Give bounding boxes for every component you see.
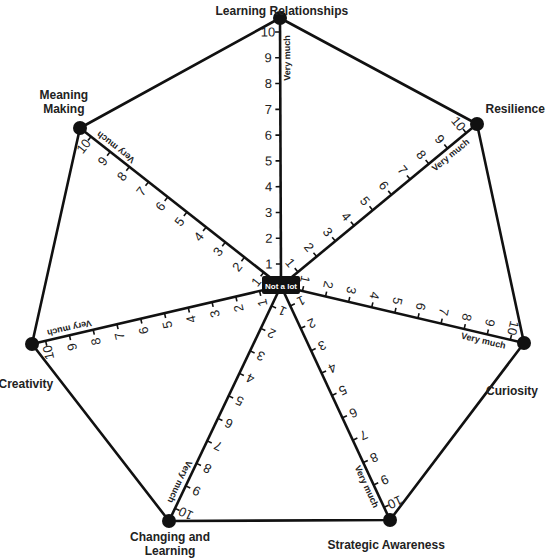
tick-mark <box>188 308 189 313</box>
tick-label: 3 <box>343 285 359 295</box>
tick-mark <box>184 212 187 216</box>
vertex-dot <box>25 337 39 351</box>
tick-mark <box>164 313 165 318</box>
tick-mark <box>145 182 148 186</box>
axis-line <box>80 128 281 286</box>
axis-learning-relationships: 12345678910Very much <box>261 11 292 286</box>
tick-label: 3 <box>316 337 329 354</box>
tick-label: 1 <box>282 255 298 270</box>
tick-mark <box>260 291 261 296</box>
tick-label: 7 <box>133 184 149 199</box>
tick-mark <box>510 335 511 340</box>
tick-mark <box>311 349 316 351</box>
tick-label: 9 <box>482 317 498 327</box>
tick-label: 2 <box>301 240 317 255</box>
tick-label: 9 <box>265 50 272 65</box>
tick-mark <box>332 237 335 241</box>
tick-mark <box>326 292 327 297</box>
axis-label-creativity: Creativity <box>0 377 53 391</box>
axis-label-line: Making <box>40 102 89 116</box>
tick-label: 7 <box>394 162 410 177</box>
axis-meaning-making: 12345678910Very much <box>73 121 281 289</box>
tick-label: 10 <box>504 319 522 337</box>
axis-label-line: Curiosity <box>486 384 538 398</box>
tick-mark <box>241 257 244 261</box>
tick-mark <box>295 268 298 272</box>
vertex-dot <box>73 121 87 135</box>
tick-mark <box>222 242 225 246</box>
tick-label: 3 <box>254 348 267 365</box>
tick-label: 5 <box>265 153 272 168</box>
axis-label-resilience: Resilience <box>486 102 545 116</box>
tick-mark <box>388 191 391 195</box>
tick-mark <box>261 328 266 330</box>
tick-label: 1 <box>254 297 270 307</box>
tick-mark <box>141 319 142 324</box>
tick-label: 8 <box>368 449 381 466</box>
tick-mark <box>165 197 168 201</box>
tick-label: 10 <box>261 25 276 40</box>
tick-mark <box>313 253 316 257</box>
tick-label: 3 <box>210 244 226 259</box>
tick-label: 3 <box>320 224 336 239</box>
tick-label: 5 <box>233 393 246 410</box>
tick-mark <box>342 416 347 418</box>
tick-label: 4 <box>326 360 339 377</box>
tick-label: 5 <box>171 214 187 229</box>
tick-label: 4 <box>338 209 354 224</box>
tick-mark <box>107 152 110 156</box>
tick-label: 6 <box>413 301 429 311</box>
tick-label: 4 <box>244 370 257 387</box>
outer-heptagon <box>32 18 524 521</box>
axis-creativity: 12345678910Very much <box>25 286 281 361</box>
axes: 12345678910Very much12345678910Very much… <box>25 11 531 528</box>
tick-label: 2 <box>265 231 272 246</box>
tick-mark <box>218 418 223 420</box>
tick-label: 8 <box>88 336 104 346</box>
tick-mark <box>69 335 70 340</box>
tick-label: 2 <box>265 325 278 342</box>
tick-mark <box>301 326 306 328</box>
tick-mark <box>464 324 465 329</box>
tick-mark <box>372 302 373 307</box>
tick-mark <box>332 393 337 395</box>
tick-label: 6 <box>347 404 360 421</box>
tick-mark <box>395 308 396 313</box>
tick-label: 10 <box>448 113 469 134</box>
tick-mark <box>351 222 354 226</box>
center-label: Not a lot <box>265 282 297 291</box>
tick-mark <box>229 396 234 398</box>
tick-label: 9 <box>64 342 80 352</box>
spider-diagram-canvas: 12345678910Very much12345678910Very much… <box>0 0 552 559</box>
tick-mark <box>363 460 368 462</box>
tick-mark <box>250 351 255 353</box>
tick-mark <box>487 330 488 335</box>
tick-label: 2 <box>229 259 245 274</box>
tick-label: 6 <box>222 415 235 432</box>
vertex-dot <box>470 117 484 131</box>
spider-diagram: 12345678910Very much12345678910Very much… <box>0 0 552 559</box>
tick-label: 1 <box>265 257 272 272</box>
tick-mark <box>290 304 295 306</box>
tick-mark <box>186 486 191 488</box>
tick-mark <box>272 306 277 308</box>
tick-mark <box>463 129 466 133</box>
tick-label: 6 <box>135 325 151 335</box>
tick-label: 6 <box>152 199 168 214</box>
tick-label: 9 <box>190 483 203 500</box>
tick-label: 8 <box>459 312 475 322</box>
tick-label: 7 <box>112 331 128 341</box>
heptagon-outline <box>32 18 524 521</box>
tick-mark <box>207 441 212 443</box>
vertex-dot <box>517 336 531 350</box>
tick-mark <box>126 167 129 171</box>
axis-line <box>281 286 390 520</box>
tick-label: 9 <box>95 154 111 169</box>
tick-label: 6 <box>265 128 272 143</box>
tick-label: 9 <box>432 132 448 147</box>
axis-strategic-awareness: 12345678910Very much <box>281 286 405 527</box>
tick-label: 8 <box>265 76 272 91</box>
tick-label: 5 <box>389 296 405 306</box>
tick-label: 5 <box>357 193 373 208</box>
tick-label: 1 <box>248 274 264 289</box>
